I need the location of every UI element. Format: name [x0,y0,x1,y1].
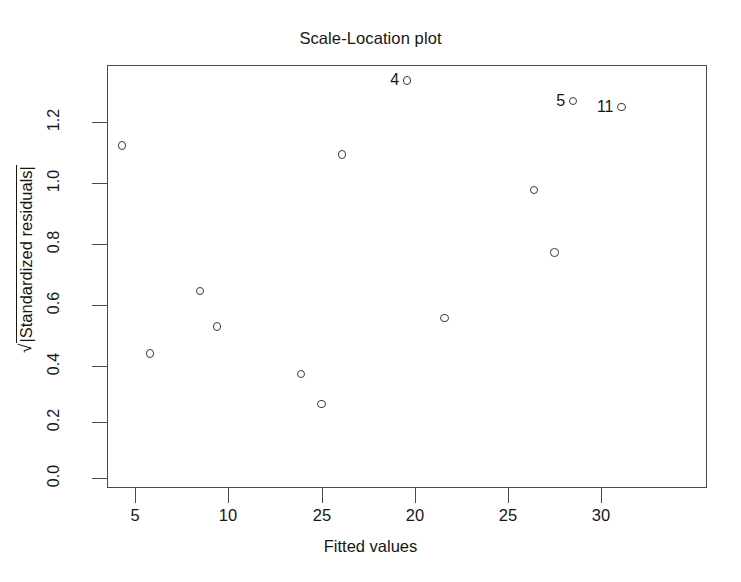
y-axis-tick-label: 0.4 [45,332,63,396]
x-axis-tick-label: 5 [105,506,165,525]
y-axis-tick-label: 0.6 [45,271,63,335]
y-axis-title-wrapper: √|Standardized residuals| [11,129,41,389]
y-axis-tick-mark [92,183,107,184]
y-axis-tick-mark [92,244,107,245]
x-axis-title: Fitted values [0,537,741,556]
x-axis-tick-label: 10 [198,506,258,525]
y-axis-title: √|Standardized residuals| [16,165,36,353]
y-axis-tick-mark [92,422,107,423]
page-title: Scale-Location plot [0,29,741,48]
x-axis-tick-mark [415,488,416,503]
x-axis-tick-label: 25 [292,506,352,525]
y-axis-tick-label: 1.2 [45,88,63,152]
y-axis-tick-label: 0.2 [45,388,63,452]
radical-icon: √ [16,344,36,353]
y-axis-tick-mark [92,478,107,479]
y-axis-tick-mark [92,366,107,367]
x-axis-tick-mark [508,488,509,503]
x-axis-tick-label: 20 [385,506,445,525]
y-axis-title-radicand: |Standardized residuals| [16,165,36,342]
y-axis-tick-label: 1.0 [45,149,63,213]
y-axis-tick-mark [92,122,107,123]
x-axis-tick-mark [322,488,323,503]
y-axis-tick-mark [92,305,107,306]
x-axis-tick-mark [228,488,229,503]
y-axis-tick-label: 0.8 [45,210,63,274]
scale-location-plot-figure: Scale-Location plot 1.21.00.80.60.40.20.… [0,0,741,582]
plot-frame [107,65,707,488]
x-axis-tick-label: 25 [478,506,538,525]
y-axis-tick-label: 0.0 [45,444,63,508]
x-axis-tick-mark [601,488,602,503]
x-axis-tick-mark [135,488,136,503]
x-axis-tick-label: 30 [571,506,631,525]
